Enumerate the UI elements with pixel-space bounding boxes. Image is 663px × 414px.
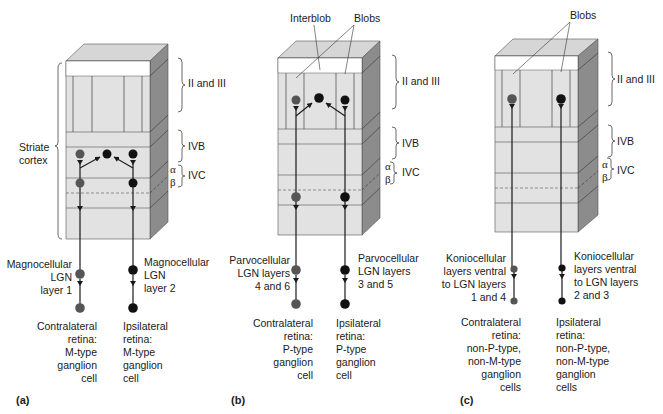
label-blobs-b: Blobs [354, 12, 380, 25]
label-layer-4c-a: IVC [188, 169, 206, 182]
panel-b-cortex-block [278, 41, 380, 235]
label-left-lgn-a: Magnocellular LGN layer 1 [6, 258, 72, 297]
label-alpha-c: α [602, 158, 608, 170]
label-layers-2-3-c: II and III [617, 73, 655, 86]
label-alpha-b: α [385, 160, 391, 172]
label-layer-4c-b: IVC [402, 166, 420, 179]
label-layers-2-3-b: II and III [402, 75, 440, 88]
label-left-retina-c: Contralateral retina: non-P-type, non-M-… [453, 316, 521, 394]
label-left-retina-b: Contralateral retina: P-type ganglion ce… [246, 317, 313, 382]
label-alpha-a: α [170, 163, 176, 175]
panel-a-cortex-block [66, 44, 168, 239]
label-layer-4b-b: IVB [402, 137, 419, 150]
label-right-retina-a: Ipsilateral retina: M-type ganglion cell [123, 320, 168, 385]
panel-c-braces [607, 52, 615, 180]
label-layer-4b-a: IVB [188, 140, 205, 153]
label-right-lgn-b: Parvocellular LGN layers 3 and 5 [358, 252, 419, 291]
label-striate-cortex: Striate cortex [19, 141, 49, 167]
panel-b-braces [390, 55, 399, 184]
label-interblob: Interblob [290, 12, 331, 25]
contralateral-ivc-neuron [76, 179, 85, 188]
ipsilateral-ivc-neuron [129, 179, 138, 188]
label-layers-2-3-a: II and III [188, 77, 226, 90]
panel-c-cortex-block [495, 39, 598, 232]
label-beta-b: β [385, 173, 391, 185]
panel-letter-a: (a) [16, 394, 29, 406]
label-beta-c: β [602, 171, 608, 183]
label-left-retina-a: Contralateral retina: M-type ganglion ce… [30, 320, 97, 385]
label-left-lgn-b: Parvocellular LGN layers 4 and 6 [224, 254, 290, 293]
panel-letter-b: (b) [231, 394, 245, 406]
label-layer-4c-c: IVC [617, 164, 635, 177]
label-right-lgn-c: Koniocellular layers ventral to LGN laye… [574, 250, 638, 302]
label-right-retina-b: Ipsilateral retina: P-type ganglion cell [336, 317, 381, 382]
label-layer-4b-c: IVB [617, 135, 634, 148]
label-beta-a: β [170, 176, 176, 188]
label-right-lgn-a: Magnocellular LGN layer 2 [144, 256, 209, 295]
label-left-lgn-c: Koniocellular layers ventral to LGN laye… [430, 252, 506, 304]
label-right-retina-c: Ipsilateral retina: non-P-type, non-M-ty… [556, 316, 610, 394]
panel-letter-c: (c) [460, 394, 473, 406]
label-blobs-c: Blobs [570, 9, 596, 22]
